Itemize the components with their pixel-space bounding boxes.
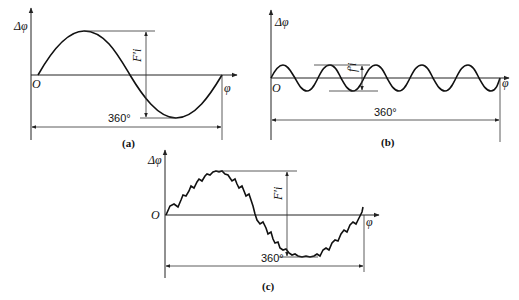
panel-a: Δφ φ O 360° F′i (a) [13,8,237,150]
caption-c: (c) [262,280,275,293]
figure-canvas: Δφ φ O 360° F′i (a) Δφ φ O 360° f′i (b) … [0,0,519,300]
panel-c: Δφ φ O 360° F′i (c) [147,150,379,293]
caption-b: (b) [381,136,395,149]
x-label-c: φ [366,215,373,229]
span-label-b: 360° [374,106,397,118]
span-label-c: 360° [261,252,284,264]
y-label-b: Δφ [274,15,289,29]
y-label-a: Δφ [13,19,28,33]
x-label-a: φ [224,81,231,95]
amplitude-label-c: F′i [271,187,285,201]
amplitude-label-b: f′i [345,63,359,72]
curve-c [166,171,363,257]
caption-a: (a) [122,137,135,150]
origin-label-b: O [272,81,281,95]
origin-label-a: O [32,77,41,91]
y-label-c: Δφ [147,153,162,167]
span-label-a: 360° [108,112,131,124]
amplitude-label-a: F′i [130,49,144,63]
origin-label-c: O [151,208,160,222]
panel-b: Δφ φ O 360° f′i (b) [271,10,509,149]
x-label-b: φ [502,76,509,90]
